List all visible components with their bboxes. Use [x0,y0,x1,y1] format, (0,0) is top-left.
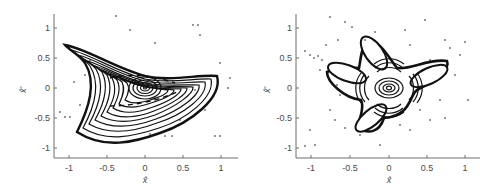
y-tick-label: 1 [45,23,50,33]
x-axis-label: x̂ [386,175,392,185]
x-tick-label: -1 [307,163,315,173]
right-contours [304,16,469,147]
y-tick-label: -0.5 [34,113,50,123]
x-tick-label: -0.5 [99,163,115,173]
x-tick-label: 0.5 [177,163,190,173]
y-tick-label: 0.5 [37,53,50,63]
y-tick-label: 0.5 [279,53,292,63]
x-tick-label: 0 [142,163,147,173]
y-tick-label: 1 [287,23,292,33]
left-contours [59,15,231,143]
y-tick-label: -1 [284,143,292,153]
right-phase-plot: 1 0.5 0 -0.5 -1 -1 -0.5 0 0.5 1 x̂ x̂' [250,0,503,193]
x-tick-label: 0 [386,163,391,173]
x-tick-label: -0.5 [342,163,358,173]
y-tick-label: -1 [42,143,50,153]
left-phase-plot: 1 0.5 0 -0.5 -1 -1 -0.5 0 0.5 1 x̂ x̂' [0,0,250,193]
x-tick-label: 1 [462,163,467,173]
y-tick-label: 0 [45,83,50,93]
y-axis-label: x̂' [262,87,272,95]
y-axis-label: x̂' [18,87,28,95]
x-tick-label: 1 [218,163,223,173]
y-tick-label: 0 [287,83,292,93]
x-tick-label: -1 [65,163,73,173]
x-axis-label: x̂ [142,175,148,185]
y-tick-label: -0.5 [276,113,292,123]
x-tick-label: 0.5 [421,163,434,173]
